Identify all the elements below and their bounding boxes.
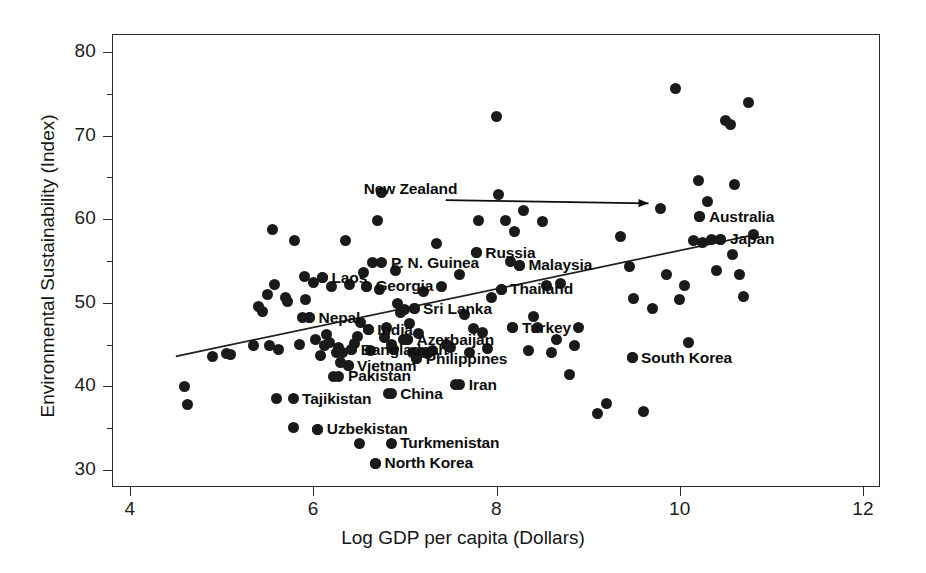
data-point-nepal[interactable]	[304, 312, 315, 323]
data-point-turkey[interactable]	[507, 322, 518, 333]
data-point[interactable]	[528, 311, 539, 322]
data-point[interactable]	[486, 292, 497, 303]
data-point[interactable]	[674, 294, 685, 305]
data-point[interactable]	[748, 229, 759, 240]
data-point-uzbekistan[interactable]	[312, 424, 323, 435]
data-point-vietnam[interactable]	[343, 360, 354, 371]
data-point[interactable]	[431, 238, 442, 249]
data-point-india[interactable]	[363, 324, 374, 335]
data-point[interactable]	[454, 269, 465, 280]
data-point-philippines[interactable]	[411, 353, 422, 364]
data-point-sri-lanka[interactable]	[409, 303, 420, 314]
data-point[interactable]	[262, 289, 273, 300]
data-point[interactable]	[477, 327, 488, 338]
data-point[interactable]	[354, 438, 365, 449]
data-point[interactable]	[289, 235, 300, 246]
data-point[interactable]	[445, 342, 456, 353]
data-point[interactable]	[288, 422, 299, 433]
data-point[interactable]	[546, 347, 557, 358]
data-point-thailand[interactable]	[496, 284, 507, 295]
data-point-japan[interactable]	[715, 234, 726, 245]
data-point[interactable]	[388, 344, 399, 355]
data-point[interactable]	[352, 331, 363, 342]
data-point[interactable]	[537, 216, 548, 227]
data-point[interactable]	[473, 215, 484, 226]
data-point[interactable]	[493, 189, 504, 200]
data-point[interactable]	[601, 398, 612, 409]
data-point[interactable]	[482, 343, 493, 354]
data-point[interactable]	[683, 337, 694, 348]
data-point[interactable]	[225, 349, 236, 360]
data-point[interactable]	[390, 265, 401, 276]
data-point[interactable]	[743, 97, 754, 108]
data-point[interactable]	[418, 286, 429, 297]
data-point[interactable]	[655, 203, 666, 214]
data-point[interactable]	[248, 340, 259, 351]
data-point[interactable]	[267, 224, 278, 235]
data-point[interactable]	[661, 269, 672, 280]
data-point[interactable]	[207, 351, 218, 362]
data-point[interactable]	[592, 408, 603, 419]
data-point-russia[interactable]	[471, 247, 482, 258]
data-point[interactable]	[679, 280, 690, 291]
data-point[interactable]	[729, 179, 740, 190]
data-point-north-korea[interactable]	[370, 458, 381, 469]
data-point[interactable]	[315, 350, 326, 361]
data-point-china[interactable]	[386, 388, 397, 399]
data-point[interactable]	[541, 280, 552, 291]
data-point[interactable]	[464, 347, 475, 358]
data-point[interactable]	[459, 309, 470, 320]
data-point[interactable]	[555, 278, 566, 289]
data-point[interactable]	[269, 279, 280, 290]
data-point[interactable]	[294, 339, 305, 350]
data-point[interactable]	[273, 344, 284, 355]
data-point[interactable]	[179, 381, 190, 392]
data-point[interactable]	[300, 294, 311, 305]
data-point-bangladesh[interactable]	[346, 344, 357, 355]
data-point-turkmenistan[interactable]	[386, 438, 397, 449]
data-point[interactable]	[564, 369, 575, 380]
data-point[interactable]	[427, 345, 438, 356]
data-point[interactable]	[344, 279, 355, 290]
data-point-azerbaijan[interactable]	[402, 334, 413, 345]
data-point[interactable]	[491, 111, 502, 122]
data-point[interactable]	[372, 215, 383, 226]
data-point[interactable]	[523, 345, 534, 356]
data-point[interactable]	[413, 328, 424, 339]
data-point[interactable]	[518, 205, 529, 216]
data-point[interactable]	[670, 83, 681, 94]
data-point[interactable]	[702, 196, 713, 207]
data-point[interactable]	[551, 334, 562, 345]
data-point[interactable]	[647, 303, 658, 314]
data-point[interactable]	[693, 175, 704, 186]
data-point[interactable]	[509, 226, 520, 237]
data-point-australia[interactable]	[694, 211, 705, 222]
data-point-georgia[interactable]	[361, 281, 372, 292]
data-point[interactable]	[738, 291, 749, 302]
data-point[interactable]	[381, 322, 392, 333]
data-point[interactable]	[182, 399, 193, 410]
data-point[interactable]	[725, 119, 736, 130]
data-point-laos[interactable]	[317, 272, 328, 283]
data-point[interactable]	[734, 269, 745, 280]
data-point[interactable]	[500, 215, 511, 226]
data-point-pakistan[interactable]	[333, 371, 344, 382]
data-point[interactable]	[326, 281, 337, 292]
data-point[interactable]	[624, 261, 635, 272]
data-point[interactable]	[404, 318, 415, 329]
data-point[interactable]	[340, 235, 351, 246]
data-point-p-n-guinea[interactable]	[376, 257, 387, 268]
data-point-malaysia[interactable]	[514, 260, 525, 271]
data-point[interactable]	[573, 322, 584, 333]
data-point[interactable]	[628, 293, 639, 304]
data-point[interactable]	[532, 322, 543, 333]
data-point[interactable]	[436, 281, 447, 292]
data-point-iran[interactable]	[454, 379, 465, 390]
data-point[interactable]	[569, 340, 580, 351]
data-point-south-korea[interactable]	[627, 352, 638, 363]
data-point[interactable]	[711, 265, 722, 276]
data-point[interactable]	[282, 296, 293, 307]
data-point[interactable]	[257, 306, 268, 317]
data-point[interactable]	[271, 393, 282, 404]
data-point[interactable]	[638, 406, 649, 417]
